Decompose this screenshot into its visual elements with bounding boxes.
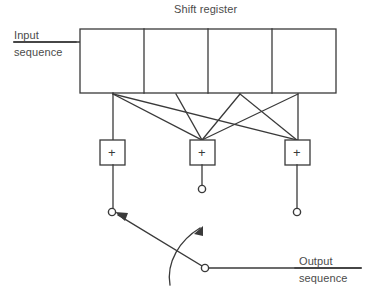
commutator-pivot-terminal: [108, 208, 115, 215]
adder-3-output-terminal: [293, 208, 300, 215]
shift-register-title: Shift register: [174, 3, 237, 16]
output-sequence-label-line1: Output: [299, 255, 333, 268]
connection-tap4-adder2: [202, 94, 298, 140]
convolutional-encoder-diagram: Shift register Input sequence Output seq…: [0, 0, 371, 298]
output-sequence-label-line2: sequence: [299, 272, 348, 285]
input-sequence-label-line2: sequence: [14, 46, 63, 59]
commutator-rotation-arc: [169, 228, 200, 285]
commutator-switch-arm: [118, 215, 202, 266]
connection-tap3-adder2: [202, 94, 240, 140]
input-sequence-label-line1: Input: [14, 29, 39, 42]
diagram-canvas: [0, 0, 371, 298]
adder-2-plus-symbol: +: [198, 146, 206, 159]
adder-2-output-terminal: [198, 185, 205, 192]
adder-1-plus-symbol: +: [108, 146, 116, 159]
commutator-contact-terminal: [201, 264, 208, 271]
adder-3-plus-symbol: +: [293, 146, 301, 159]
